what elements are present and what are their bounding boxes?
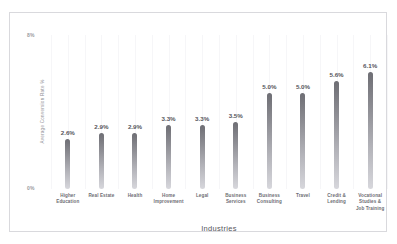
bar-value-label: 3.3% xyxy=(195,115,209,122)
bar-value-label: 5.0% xyxy=(296,83,310,90)
bar[interactable] xyxy=(65,139,70,189)
x-axis-category-label: Health xyxy=(118,193,152,199)
bar[interactable] xyxy=(300,93,305,189)
bar[interactable] xyxy=(233,122,238,189)
chart-screenshot: 8% 0% Average Conversion Rate % 2.6%2.9%… xyxy=(0,0,397,244)
bar[interactable] xyxy=(166,125,171,189)
x-axis-category-label: Travel xyxy=(286,193,320,199)
x-axis-title: Industries xyxy=(51,224,387,233)
bar-value-label: 3.5% xyxy=(229,112,243,119)
x-axis-category-label: Vocational Studies & Job Training xyxy=(353,193,387,212)
x-axis-category-label: Home Improvement xyxy=(152,193,186,206)
bar[interactable] xyxy=(334,81,339,189)
bar-value-label: 2.6% xyxy=(61,129,75,136)
gridline xyxy=(387,35,388,189)
bar-value-label: 2.9% xyxy=(94,123,108,130)
bar[interactable] xyxy=(99,133,104,189)
bar-series: 2.6%2.9%2.9%3.3%3.3%3.5%5.0%5.0%5.6%6.1% xyxy=(51,35,387,189)
bar-column[interactable]: 6.1% xyxy=(353,35,387,189)
chart-title-clipped xyxy=(0,0,397,3)
bar-column[interactable]: 3.3% xyxy=(185,35,219,189)
y-axis-title: Average Conversion Rate % xyxy=(40,57,45,167)
bar-column[interactable]: 2.9% xyxy=(85,35,119,189)
bar-value-label: 3.3% xyxy=(162,115,176,122)
bar-column[interactable]: 2.9% xyxy=(118,35,152,189)
bar[interactable] xyxy=(267,93,272,189)
bar[interactable] xyxy=(368,72,373,189)
x-axis-category-label: Real Estate xyxy=(85,193,119,199)
x-axis-category-label: Credit & Lending xyxy=(320,193,354,206)
bar-column[interactable]: 5.6% xyxy=(320,35,354,189)
chart-frame: 8% 0% Average Conversion Rate % 2.6%2.9%… xyxy=(9,12,387,232)
bar-value-label: 2.9% xyxy=(128,123,142,130)
x-axis-category-labels: Higher EducationReal EstateHealthHome Im… xyxy=(51,193,387,212)
bar-column[interactable]: 3.5% xyxy=(219,35,253,189)
x-axis-category-label: Business Consulting xyxy=(253,193,287,206)
bar-column[interactable]: 5.0% xyxy=(286,35,320,189)
y-axis-tick-min: 0% xyxy=(27,185,35,191)
bar-column[interactable]: 2.6% xyxy=(51,35,85,189)
y-axis-tick-max: 8% xyxy=(27,32,35,38)
x-axis-category-label: Business Services xyxy=(219,193,253,206)
x-axis-category-label: Legal xyxy=(185,193,219,199)
bar-value-label: 5.6% xyxy=(329,71,343,78)
bar-value-label: 6.1% xyxy=(363,62,377,69)
bar-value-label: 5.0% xyxy=(262,83,276,90)
bar[interactable] xyxy=(200,125,205,189)
bar-column[interactable]: 3.3% xyxy=(152,35,186,189)
x-axis-category-label: Higher Education xyxy=(51,193,85,206)
bar-column[interactable]: 5.0% xyxy=(253,35,287,189)
bar[interactable] xyxy=(132,133,137,189)
